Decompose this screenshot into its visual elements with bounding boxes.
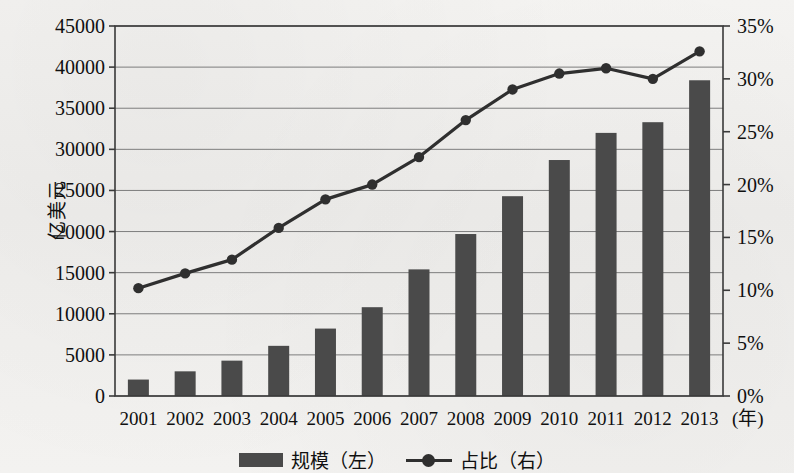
line-marker [601, 63, 611, 73]
line-marker [554, 68, 564, 78]
line-marker [414, 152, 424, 162]
y-axis-left-tick-label: 40000 [55, 57, 105, 77]
bar [689, 80, 710, 396]
line-series [133, 46, 705, 293]
legend-bar-swatch-icon [239, 453, 283, 467]
chart-figure: 亿美元 050001000015000200002500030000350004… [0, 0, 794, 473]
legend-label-bar: 规模（左） [291, 446, 386, 473]
line-marker [320, 194, 330, 204]
y-axis-left-tick-label: 20000 [55, 222, 105, 242]
y-axis-left-tick-label: 25000 [55, 180, 105, 200]
bar [409, 269, 430, 396]
legend-label-line: 占比（右） [460, 446, 555, 473]
y-axis-right-tick-label: 0% [737, 386, 764, 406]
chart-legend: 规模（左） 占比（右） [0, 446, 794, 473]
y-axis-right-tick-label: 25% [737, 122, 774, 142]
y-axis-left-tick-label: 45000 [55, 16, 105, 36]
line-marker [180, 268, 190, 278]
x-axis-unit-label: (年) [732, 409, 764, 428]
y-axis-left-tick-label: 0 [95, 386, 105, 406]
y-axis-left-tick-label: 15000 [55, 263, 105, 283]
bar [455, 234, 476, 396]
line-marker [648, 74, 658, 84]
bar [268, 346, 289, 396]
y-axis-right-tick-label: 30% [737, 69, 774, 89]
bar [315, 329, 336, 396]
bar [596, 133, 617, 396]
y-axis-left-tick-label: 30000 [55, 139, 105, 159]
y-axis-right-tick-label: 35% [737, 16, 774, 36]
line-marker [461, 115, 471, 125]
bar [175, 371, 196, 396]
line-marker [273, 223, 283, 233]
y-axis-right-tick-label: 20% [737, 175, 774, 195]
y-axis-right-tick-label: 15% [737, 227, 774, 247]
legend-line-marker-icon [406, 453, 452, 467]
line-marker [133, 283, 143, 293]
bar [128, 380, 149, 396]
y-axis-right-tick-label: 5% [737, 333, 764, 353]
legend-item-bar: 规模（左） [239, 446, 386, 473]
bar-series [128, 80, 710, 396]
legend-item-line: 占比（右） [406, 446, 555, 473]
y-axis-right-tick-label: 10% [737, 280, 774, 300]
bar [221, 361, 242, 396]
line-marker [694, 46, 704, 56]
y-axis-left-tick-label: 35000 [55, 98, 105, 118]
line-marker [507, 84, 517, 94]
bar [642, 122, 663, 396]
bar [549, 160, 570, 396]
line-marker [227, 254, 237, 264]
y-axis-left-tick-label: 5000 [65, 345, 105, 365]
bar [502, 196, 523, 396]
line-marker [367, 179, 377, 189]
bar [362, 307, 383, 396]
y-axis-left-tick-label: 10000 [55, 304, 105, 324]
chart-plot-svg [0, 0, 794, 473]
x-axis-tick-label: 2013 [670, 409, 730, 428]
